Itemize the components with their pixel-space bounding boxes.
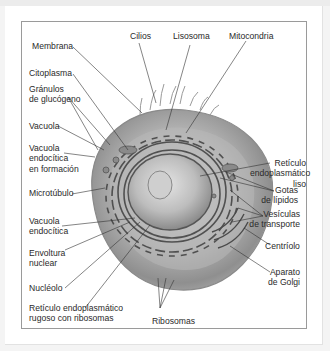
label-nucleolo: Nucléolo	[29, 283, 62, 293]
label-vacuola-endocitica-formacion: Vacuola endocítica en formación	[29, 143, 79, 174]
label-centriolo: Centríolo	[265, 241, 300, 251]
label-cilios: Cilios	[130, 31, 151, 41]
label-vacuola: Vacuola	[29, 121, 59, 131]
label-vacuola-endocitica: Vacuola endocítica	[29, 216, 68, 237]
label-vesiculas-transporte: Vesículas de transporte	[240, 209, 300, 230]
label-lisosoma: Lisosoma	[173, 31, 210, 41]
label-ribosomas: Ribosomas	[152, 316, 195, 326]
label-aparato-golgi: Aparato de Golgi	[260, 267, 300, 288]
label-citoplasma: Citoplasma	[29, 68, 72, 78]
nucleolus	[148, 171, 172, 199]
label-reticulo-rugoso: Retículo endoplasmático rugoso con ribos…	[29, 303, 123, 324]
label-granulos-glucogeno: Gránulos de glucógeno	[29, 84, 81, 105]
label-gotas-lipidos: Gotas de lípidos	[250, 185, 298, 206]
label-microtubulo: Microtúbulo	[29, 188, 73, 198]
label-mitocondria: Mitocondria	[229, 31, 273, 41]
label-envoltura-nuclear: Envoltura nuclear	[29, 248, 65, 269]
label-membrana: Membrana	[32, 41, 73, 51]
